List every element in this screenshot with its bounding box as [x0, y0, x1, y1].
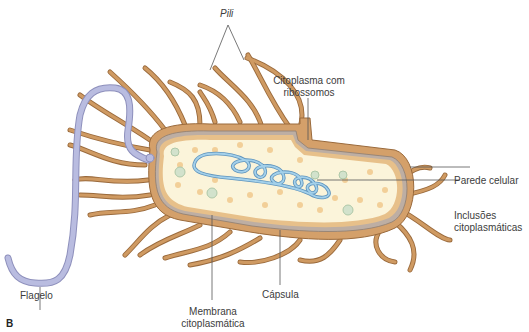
label-citoplasma-line1: Citoplasma com [268, 75, 350, 87]
label-membrana: Membrana citoplasmática [172, 306, 254, 330]
label-pili: Pili [220, 8, 233, 20]
panel-letter: B [6, 318, 13, 329]
label-inclusoes-line1: Inclusões [454, 210, 522, 222]
flagellum [8, 88, 154, 284]
label-inclusoes: Inclusões citoplasmáticas [454, 210, 522, 234]
label-parede: Parede celular [454, 175, 518, 187]
label-capsula: Cápsula [262, 289, 299, 301]
label-membrana-line1: Membrana [172, 306, 254, 318]
label-inclusoes-line2: citoplasmáticas [454, 222, 522, 234]
label-flagelo: Flagelo [20, 290, 53, 302]
label-membrana-line2: citoplasmática [172, 318, 254, 330]
label-citoplasma: Citoplasma com ribossomos [268, 75, 350, 99]
label-citoplasma-line2: ribossomos [268, 87, 350, 99]
bacterium-diagram [0, 0, 529, 332]
